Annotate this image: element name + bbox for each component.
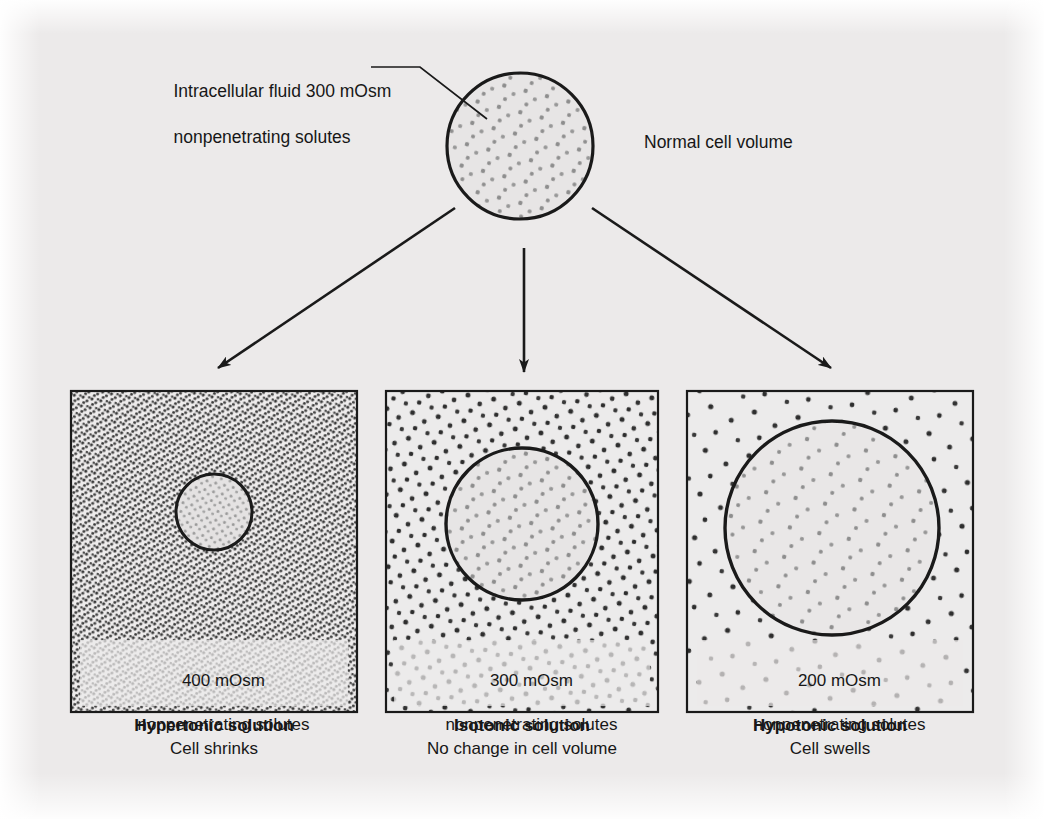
cell-shrunken xyxy=(176,474,252,550)
hypotonic-caption-title: Hypotonic solution xyxy=(687,716,973,736)
hypertonic-caption-title: Hypertonic solution xyxy=(71,716,357,736)
isotonic-caption-subtitle: No change in cell volume xyxy=(376,739,668,759)
normal-cell-volume-label: Normal cell volume xyxy=(644,131,793,154)
arrow-to-hypotonic xyxy=(592,208,831,368)
cell-normal xyxy=(446,448,598,600)
hypertonic-osmolarity: 400 mOsm xyxy=(182,671,265,690)
intracellular-label: Intracellular fluid 300 mOsm nonpenetrat… xyxy=(154,57,391,172)
hypotonic-osmolarity: 200 mOsm xyxy=(798,671,881,690)
arrow-to-hypertonic xyxy=(218,208,455,368)
hypotonic-caption-subtitle: Cell swells xyxy=(687,739,973,759)
intracellular-label-line1: Intracellular fluid 300 mOsm xyxy=(173,81,391,101)
cell-swollen xyxy=(725,421,939,635)
isotonic-caption-title: Isotonic solution xyxy=(386,716,658,736)
osmosis-figure: Intracellular fluid 300 mOsm nonpenetrat… xyxy=(0,0,1044,819)
isotonic-osmolarity: 300 mOsm xyxy=(490,671,573,690)
normal-cell xyxy=(447,73,593,219)
hypertonic-caption-subtitle: Cell shrinks xyxy=(71,739,357,759)
intracellular-label-line2: nonpenetrating solutes xyxy=(173,127,350,147)
